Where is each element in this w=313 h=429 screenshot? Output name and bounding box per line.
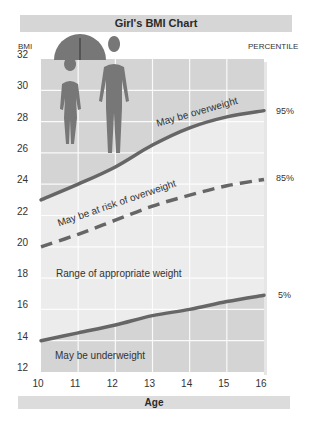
x-axis-title: Age: [18, 396, 290, 409]
y-tick-label: 22: [17, 206, 37, 217]
plot-area: [0, 0, 313, 429]
percentile-85-label: 85%: [276, 173, 294, 183]
x-tick-label: 14: [177, 378, 197, 389]
plot-shadow: [264, 62, 267, 375]
y-tick-label: 16: [17, 299, 37, 310]
y-tick-label: 32: [17, 49, 37, 60]
region-label-underweight: May be underweight: [55, 350, 145, 361]
y-tick-label: 14: [17, 331, 37, 342]
y-tick-label: 20: [17, 237, 37, 248]
x-tick-label: 12: [102, 378, 122, 389]
percentile-95-label: 95%: [276, 106, 294, 116]
y-tick-label: 30: [17, 80, 37, 91]
y-tick-label: 28: [17, 112, 37, 123]
y-tick-label: 24: [17, 174, 37, 185]
percentile-5-label: 5%: [278, 290, 291, 300]
y-tick-label: 12: [17, 362, 37, 373]
region-label-appropriate: Range of appropriate weight: [56, 268, 182, 279]
x-tick-label: 11: [65, 378, 85, 389]
x-tick-label: 16: [251, 378, 271, 389]
y-tick-label: 18: [17, 268, 37, 279]
x-tick-label: 10: [28, 378, 48, 389]
x-tick-label: 13: [140, 378, 160, 389]
y-tick-label: 26: [17, 143, 37, 154]
x-tick-label: 15: [214, 378, 234, 389]
